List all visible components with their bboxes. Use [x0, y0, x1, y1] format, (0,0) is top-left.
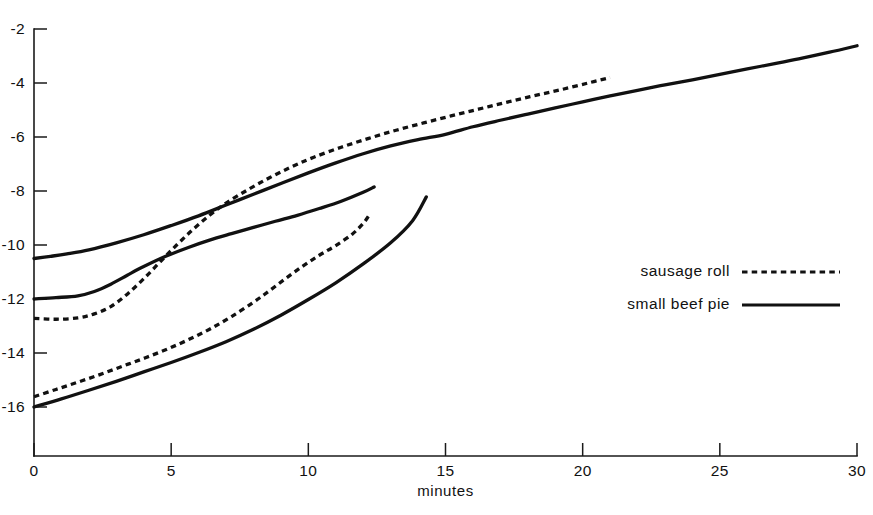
y-tick-label: -14 — [1, 344, 25, 361]
legend-label: small beef pie — [627, 295, 730, 312]
x-tick-label: 20 — [574, 462, 592, 479]
y-tick-label: -2 — [10, 20, 25, 37]
y-tick-label: -8 — [10, 182, 25, 199]
x-tick-label: 25 — [711, 462, 729, 479]
chart-legend: sausage rollsmall beef pie — [627, 262, 840, 312]
y-tick-label: -4 — [10, 74, 25, 91]
x-tick-label: 10 — [299, 462, 317, 479]
chart-container: -2-4-6-8-10-12-14-16 051015202530 minute… — [0, 0, 873, 515]
x-tick-label: 15 — [436, 462, 454, 479]
data-series-line — [34, 187, 374, 299]
y-tick-label: -12 — [1, 290, 25, 307]
y-tick-label: -16 — [1, 398, 25, 415]
y-tick-label: -10 — [1, 236, 25, 253]
x-tick-label: 0 — [29, 462, 38, 479]
x-axis-title: minutes — [417, 482, 474, 499]
x-tick-label: 30 — [848, 462, 866, 479]
y-tick-label: -6 — [10, 128, 25, 145]
line-chart: -2-4-6-8-10-12-14-16 051015202530 minute… — [0, 0, 873, 515]
y-axis-ticks: -2-4-6-8-10-12-14-16 — [1, 20, 47, 415]
x-axis-ticks: 051015202530 — [29, 443, 866, 479]
legend-label: sausage roll — [640, 262, 730, 279]
data-series-group — [34, 46, 857, 407]
data-series-line — [34, 46, 857, 259]
x-tick-label: 5 — [167, 462, 176, 479]
